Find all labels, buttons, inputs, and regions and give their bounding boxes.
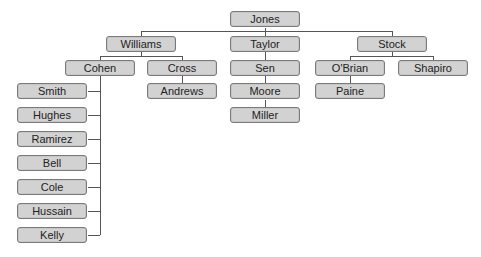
node-cohen: Cohen bbox=[65, 60, 135, 76]
node-andrews: Andrews bbox=[147, 83, 217, 99]
node-hussain: Hussain bbox=[17, 203, 87, 219]
node-obrian: O'Brian bbox=[315, 60, 385, 76]
node-hughes: Hughes bbox=[17, 107, 87, 123]
node-moore: Moore bbox=[230, 83, 300, 99]
node-cole: Cole bbox=[17, 179, 87, 195]
node-ramirez: Ramirez bbox=[17, 131, 87, 147]
node-sen: Sen bbox=[230, 60, 300, 76]
node-williams: Williams bbox=[106, 36, 176, 52]
node-miller: Miller bbox=[230, 107, 300, 123]
node-taylor: Taylor bbox=[230, 36, 300, 52]
node-paine: Paine bbox=[315, 83, 385, 99]
node-kelly: Kelly bbox=[17, 227, 87, 243]
node-bell: Bell bbox=[17, 155, 87, 171]
node-shapiro: Shapiro bbox=[398, 60, 468, 76]
node-stock: Stock bbox=[357, 36, 427, 52]
node-smith: Smith bbox=[17, 83, 87, 99]
node-cross: Cross bbox=[147, 60, 217, 76]
node-jones: Jones bbox=[230, 11, 300, 27]
